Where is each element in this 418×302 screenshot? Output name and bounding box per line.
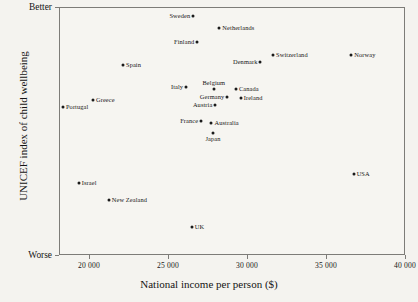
y-axis-tick-label: Worse	[28, 250, 52, 260]
data-point	[107, 198, 110, 201]
point-label: Israel	[82, 180, 97, 186]
point-label: UK	[195, 224, 204, 230]
data-point	[226, 96, 229, 99]
point-label: Norway	[354, 52, 375, 58]
point-label: Australia	[214, 120, 238, 126]
data-point	[218, 26, 221, 29]
point-label: Switzerland	[276, 52, 308, 58]
x-axis-tick-label: 40 000	[394, 261, 416, 270]
x-axis-title: National income per person ($)	[0, 278, 418, 290]
x-axis-tick	[247, 255, 248, 259]
point-label: Sweden	[169, 13, 190, 19]
point-label: Italy	[171, 84, 183, 90]
x-axis-tick	[405, 255, 406, 259]
data-point	[272, 53, 275, 56]
x-axis-tick-label: 25 000	[157, 261, 179, 270]
data-point	[352, 172, 355, 175]
data-point	[190, 225, 193, 228]
data-point	[350, 53, 353, 56]
data-point	[61, 105, 64, 108]
plot-area	[59, 7, 405, 255]
data-point	[214, 103, 217, 106]
y-axis-tick	[55, 255, 59, 256]
x-axis-tick-label: 30 000	[236, 261, 258, 270]
x-axis-tick	[168, 255, 169, 259]
x-axis-tick	[326, 255, 327, 259]
point-label: Netherlands	[222, 25, 254, 31]
point-label: USA	[357, 171, 370, 177]
data-point	[234, 87, 237, 90]
x-axis-tick	[89, 255, 90, 259]
data-point	[196, 40, 199, 43]
point-label: Portugal	[66, 104, 88, 110]
data-point	[192, 14, 195, 17]
point-label: Denmark	[233, 58, 257, 64]
data-point	[210, 122, 213, 125]
point-label: Spain	[126, 62, 141, 68]
point-label: Canada	[239, 86, 259, 92]
data-point	[259, 60, 262, 63]
y-axis-tick	[55, 7, 59, 8]
data-point	[200, 120, 203, 123]
point-label: Germany	[200, 94, 224, 100]
point-label: Greece	[96, 97, 115, 103]
point-label: Belgium	[202, 80, 225, 86]
y-axis-title: UNICEF index of child wellbeing	[17, 1, 29, 251]
y-axis-tick-label: Better	[29, 2, 52, 12]
point-label: Ireland	[244, 95, 263, 101]
point-label: Finland	[174, 39, 194, 45]
data-point	[185, 85, 188, 88]
x-axis-tick-label: 20 000	[78, 261, 100, 270]
point-label: France	[180, 118, 198, 124]
point-label: Japan	[206, 136, 221, 142]
scatter-chart-figure: SwedenNetherlandsFinlandDenmarkSwitzerla…	[0, 0, 418, 302]
data-point	[91, 99, 94, 102]
point-label: New Zealand	[112, 197, 147, 203]
x-axis-tick-label: 35 000	[315, 261, 337, 270]
data-point	[212, 87, 215, 90]
data-point	[77, 182, 80, 185]
data-point	[121, 64, 124, 67]
point-label: Austria	[193, 102, 213, 108]
data-point	[239, 97, 242, 100]
